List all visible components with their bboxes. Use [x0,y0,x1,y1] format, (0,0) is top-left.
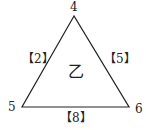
vertex-label-top: 4 [70,1,78,13]
center-label: 乙 [68,64,84,80]
edge-label-bottom: 【8】 [60,112,92,124]
edge-label-right: 【5】 [104,53,136,65]
vertex-label-bottom-left: 5 [8,101,16,113]
vertex-label-bottom-right: 6 [135,103,143,115]
edge-label-left: 【2】 [22,53,54,65]
